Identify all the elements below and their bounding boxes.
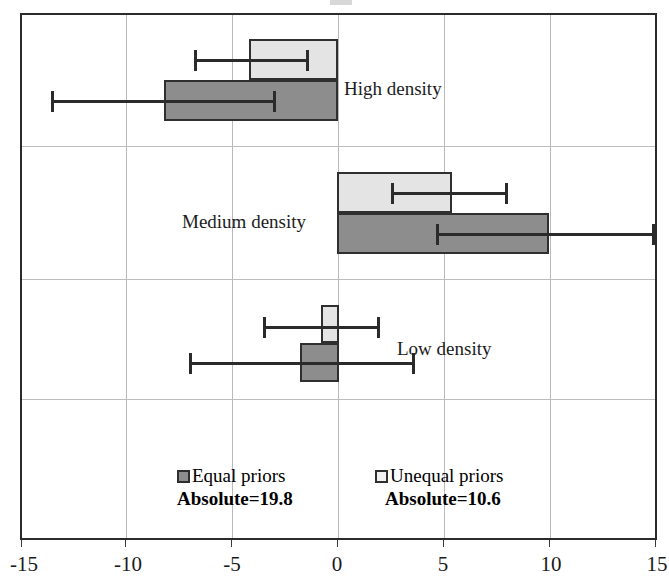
axis-tick-label--5: -5 <box>223 552 241 577</box>
gridline-x--10 <box>126 15 127 538</box>
bar-low-density-unequal-priors <box>321 305 339 343</box>
errorbar-low-density-unequal-priors <box>263 326 380 329</box>
gridline-row-2 <box>22 279 655 280</box>
errorcap-medium-density-equal-low <box>436 224 439 245</box>
legend: Equal priors Absolute=19.8 Unequal prior… <box>22 465 655 525</box>
errorcap-high-density-equal-high <box>273 91 276 112</box>
errorbar-medium-density-equal-priors <box>436 233 655 236</box>
legend-entry-unequal-priors: Unequal priors Absolute=10.6 <box>375 465 503 510</box>
errorcap-medium-density-unequal-low <box>391 183 394 204</box>
errorcap-medium-density-unequal-high <box>505 183 508 204</box>
axis-tick-0 <box>337 540 338 547</box>
errorbar-high-density-equal-priors <box>51 100 276 103</box>
legend-unequal-priors-row: Unequal priors <box>375 465 503 487</box>
errorbar-medium-density-unequal-priors <box>391 192 508 195</box>
errorcap-medium-density-equal-high <box>652 224 655 245</box>
errorbar-low-density-equal-priors <box>189 362 415 365</box>
axis-tick-5 <box>443 540 444 547</box>
errorcap-low-density-equal-low <box>189 353 192 374</box>
legend-absolute-equal-priors: Absolute=19.8 <box>177 488 293 510</box>
category-label-high-density: High density <box>344 78 442 100</box>
gridline-x-0 <box>338 15 339 538</box>
legend-absolute-unequal-priors: Absolute=10.6 <box>385 488 503 510</box>
axis-tick-label--10: -10 <box>114 552 142 577</box>
legend-label-unequal-priors: Unequal priors <box>390 465 503 487</box>
legend-swatch-unequal-priors-icon <box>375 470 388 483</box>
gridline-x-5 <box>444 15 445 538</box>
errorcap-high-density-unequal-low <box>194 50 197 71</box>
gridline-x-10 <box>550 15 551 538</box>
axis-tick-label-0: 0 <box>332 552 343 577</box>
legend-swatch-equal-priors-icon <box>177 470 190 483</box>
axis-tick-10 <box>549 540 550 547</box>
axis-tick-15 <box>655 540 656 547</box>
plot-area: High density Medium density Low density … <box>20 13 657 540</box>
legend-entry-equal-priors: Equal priors Absolute=19.8 <box>177 465 293 510</box>
axis-tick--15 <box>21 540 22 547</box>
axis-tick--5 <box>231 540 232 547</box>
legend-label-equal-priors: Equal priors <box>192 465 285 487</box>
errorcap-high-density-equal-low <box>51 91 54 112</box>
axis-tick-label--15: -15 <box>10 552 38 577</box>
axis-tick--10 <box>125 540 126 547</box>
errorcap-low-density-unequal-low <box>263 317 266 338</box>
errorcap-low-density-unequal-high <box>377 317 380 338</box>
errorbar-high-density-unequal-priors <box>194 59 309 62</box>
category-label-low-density: Low density <box>397 338 491 360</box>
axis-tick-label-10: 10 <box>541 552 562 577</box>
gridline-row-1 <box>22 146 655 147</box>
axis-tick-label-15: 15 <box>647 552 668 577</box>
category-label-medium-density: Medium density <box>182 211 306 233</box>
top-artifact <box>330 0 352 5</box>
errorcap-high-density-unequal-high <box>306 50 309 71</box>
horizontal-bar-chart: High density Medium density Low density … <box>0 0 669 588</box>
axis-tick-label-5: 5 <box>438 552 449 577</box>
legend-equal-priors-row: Equal priors <box>177 465 293 487</box>
gridline-row-3 <box>22 399 655 400</box>
